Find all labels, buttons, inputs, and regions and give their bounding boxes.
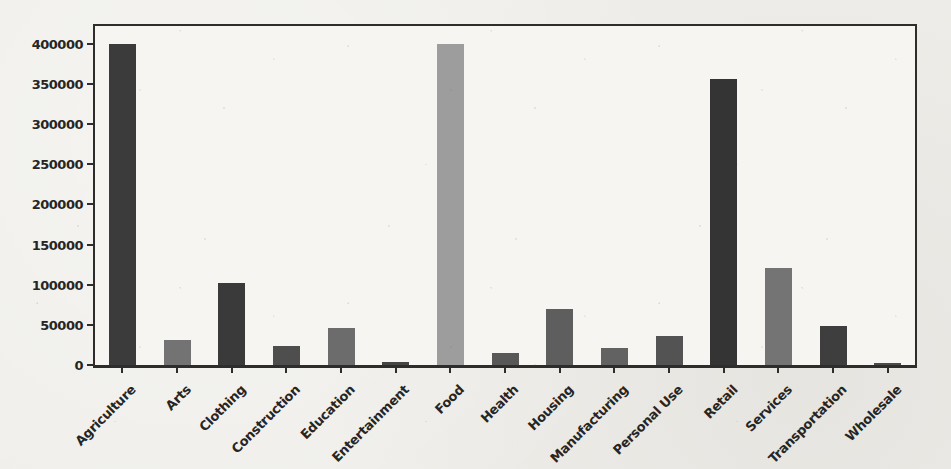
y-tick-label: 100000 xyxy=(13,277,83,292)
y-tick-mark xyxy=(87,163,93,165)
y-tick-mark xyxy=(87,203,93,205)
x-tick-mark xyxy=(231,367,233,373)
x-tick-label-food: Food xyxy=(432,382,467,417)
x-tick-mark xyxy=(887,367,889,373)
bar-education xyxy=(328,328,355,365)
x-tick-label-clothing: Clothing xyxy=(196,382,248,434)
x-tick-label-wholesale: Wholesale xyxy=(842,382,904,444)
y-tick-mark xyxy=(87,284,93,286)
bar-entertainment xyxy=(382,362,409,365)
y-tick-label: 300000 xyxy=(13,117,83,132)
bar-agriculture xyxy=(109,44,136,365)
bar-manufacturing xyxy=(601,348,628,365)
x-tick-mark xyxy=(340,367,342,373)
y-tick-label: 250000 xyxy=(13,157,83,172)
x-tick-label-services: Services xyxy=(742,382,795,435)
y-tick-label: 0 xyxy=(13,358,83,373)
x-tick-mark xyxy=(504,367,506,373)
y-tick-label: 400000 xyxy=(13,36,83,51)
x-tick-label-retail: Retail xyxy=(701,382,741,422)
y-tick-label: 150000 xyxy=(13,237,83,252)
x-tick-mark xyxy=(559,367,561,373)
bar-personal-use xyxy=(656,336,683,365)
y-tick-mark xyxy=(87,123,93,125)
x-tick-mark xyxy=(613,367,615,373)
x-tick-mark xyxy=(777,367,779,373)
bar-transportation xyxy=(820,326,847,365)
bar-construction xyxy=(273,346,300,365)
x-tick-mark xyxy=(121,367,123,373)
y-tick-mark xyxy=(87,324,93,326)
x-tick-mark xyxy=(176,367,178,373)
bar-arts xyxy=(164,340,191,365)
x-tick-mark xyxy=(668,367,670,373)
y-tick-label: 50000 xyxy=(13,317,83,332)
y-tick-mark xyxy=(87,83,93,85)
bar-retail xyxy=(710,79,737,365)
x-tick-mark xyxy=(449,367,451,373)
x-tick-label-health: Health xyxy=(478,382,522,426)
plot-area xyxy=(93,24,917,368)
x-tick-mark xyxy=(723,367,725,373)
x-tick-mark xyxy=(285,367,287,373)
y-tick-mark xyxy=(87,364,93,366)
bar-services xyxy=(765,268,792,365)
y-tick-label: 200000 xyxy=(13,197,83,212)
bar-housing xyxy=(546,309,573,365)
bar-wholesale xyxy=(874,363,901,365)
bar-clothing xyxy=(218,283,245,365)
x-tick-label-agriculture: Agriculture xyxy=(72,382,139,449)
scanned-page: 0500001000001500002000002500003000003500… xyxy=(0,0,951,469)
x-tick-mark xyxy=(832,367,834,373)
bar-health xyxy=(492,353,519,365)
x-tick-mark xyxy=(395,367,397,373)
y-tick-label: 350000 xyxy=(13,76,83,91)
x-tick-label-arts: Arts xyxy=(162,382,193,413)
y-tick-mark xyxy=(87,43,93,45)
y-tick-mark xyxy=(87,244,93,246)
x-tick-label-housing: Housing xyxy=(525,382,576,433)
bar-food xyxy=(437,44,464,365)
